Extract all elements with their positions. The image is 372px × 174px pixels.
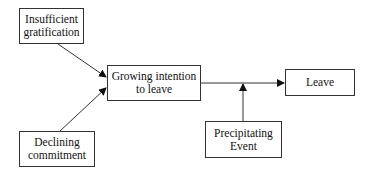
node-label-line: Insufficient xyxy=(23,13,79,26)
arrow-declining-to-growing xyxy=(60,88,106,131)
node-label-line: Declining xyxy=(28,136,86,149)
node-label-line: to leave xyxy=(112,83,197,96)
node-label-line: Event xyxy=(214,140,273,153)
node-label-line: commitment xyxy=(28,149,86,162)
node-precipitating-event: Precipitating Event xyxy=(205,121,282,158)
node-growing-intention: Growing intention to leave xyxy=(107,65,201,101)
node-label-line: Growing intention xyxy=(112,70,197,83)
node-label-line: Precipitating xyxy=(214,127,273,140)
node-label-line: gratification xyxy=(23,26,79,39)
arrow-insufficient-to-growing xyxy=(58,44,106,77)
node-declining-commitment: Declining commitment xyxy=(19,131,95,167)
node-insufficient-gratification: Insufficient gratification xyxy=(19,8,84,44)
node-leave: Leave xyxy=(285,69,355,96)
node-label-line: Leave xyxy=(306,76,334,89)
